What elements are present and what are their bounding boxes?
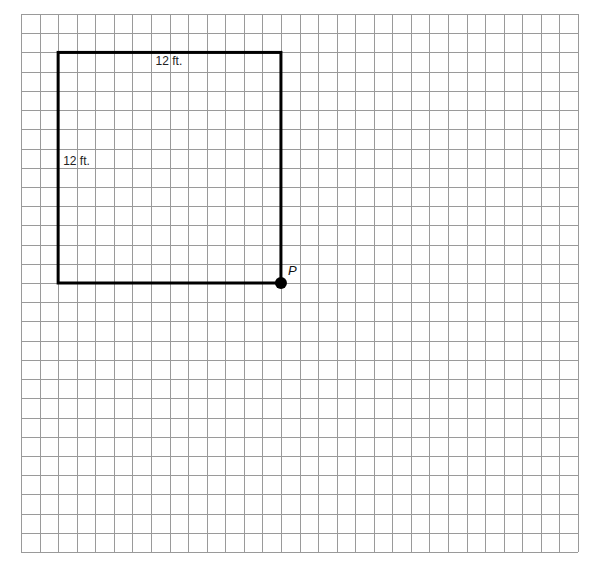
left-side-length-label: 12 ft. [63,154,90,168]
top-side-length-label: 12 ft. [156,54,183,68]
grid-diagram [0,0,597,567]
point-p-label: P [288,263,297,278]
square-shape [58,52,281,283]
point-p-marker [275,277,287,289]
